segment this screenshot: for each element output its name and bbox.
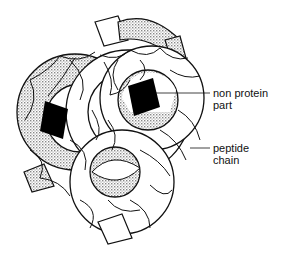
label-peptide-chain: peptide chain [213, 142, 249, 166]
protein-structure-diagram [0, 0, 281, 257]
label-non-protein-part: non protein part [213, 87, 268, 111]
label-line: peptide [213, 142, 249, 154]
ribbon-tail-left [24, 164, 54, 192]
label-line: non protein [213, 87, 268, 99]
label-line: chain [213, 154, 249, 166]
label-line: part [213, 99, 268, 111]
